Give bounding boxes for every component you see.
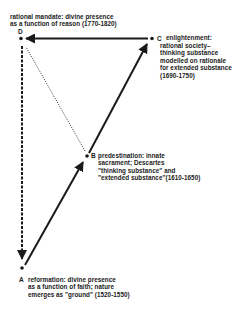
node-c-line-2: rational society– [160,42,232,50]
node-a-letter: A [19,276,24,283]
node-d-dot [19,37,23,41]
node-a-line-2: as a function of faith; nature [28,283,130,290]
node-a-dot [20,266,24,270]
node-a-line-1: reformation: divine presence [28,276,130,283]
node-b-dot [85,154,89,158]
node-c-line-5: for extended substance [160,64,232,72]
node-c-dot [150,37,154,41]
edge-b-to-c [89,44,147,153]
node-b-line-2: sacrament; Descartes [98,159,200,166]
node-c-label: enlightenment: rational society– thinkin… [160,34,232,80]
node-c-line-4: modelled on rationale [160,57,232,65]
node-b-line-1: predestination: innate [98,152,200,159]
node-d-letter: D [18,28,23,35]
node-d-line-2: as a function of reason (1770-1820) [10,20,117,27]
edge-b-to-d [26,47,85,151]
node-a-line-3: emerges as "ground" (1520-1550) [28,291,130,298]
node-b-letter: B [91,152,96,159]
node-c-line-1: enlightenment: [160,34,232,42]
edge-a-to-b [25,162,83,265]
node-b-line-3: "thinking substance" and [98,167,200,174]
node-a-label: reformation: divine presence as a functi… [28,276,130,298]
node-b-label: predestination: innate sacrament; Descar… [98,152,200,182]
node-c-line-6: (1690-1750) [160,72,232,80]
node-b-line-4: "extended substance"(1610-1650) [98,174,200,181]
node-c-line-3: thinking substance [160,49,232,57]
node-d-label: rational mandate: divine presence as a f… [10,13,117,28]
node-d-line-1: rational mandate: divine presence [10,13,117,20]
